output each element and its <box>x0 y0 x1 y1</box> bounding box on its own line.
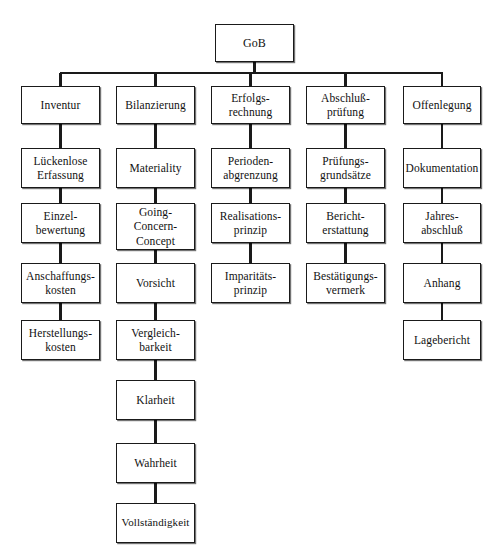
node-label: Materiality <box>127 161 183 175</box>
node-label: Einzel- bewertung <box>34 209 87 237</box>
node-label: Erfolgs- rechnung <box>227 91 275 119</box>
link-dokumentation-to-jahresabschluss <box>441 188 443 203</box>
link-inventur-to-lueckenlose-erfassung <box>59 124 61 148</box>
link-anschaffungskosten-to-herstellungskosten <box>59 303 61 320</box>
node-label: Bestätigungs- vermerk <box>311 269 380 297</box>
node-materiality: Materiality <box>116 148 195 188</box>
gob-hierarchy-diagram: GoBInventurLückenlose ErfassungEinzel- b… <box>0 0 499 560</box>
node-dokumentation: Dokumentation <box>403 148 481 188</box>
link-einzelbewertung-to-anschaffungskosten <box>59 243 61 263</box>
node-periodenabgrenzung: Perioden- abgrenzung <box>211 148 290 188</box>
node-label: Going- Concern- Concept <box>132 205 180 247</box>
node-jahresabschluss: Jahres- abschluß <box>403 203 481 243</box>
node-gob: GoB <box>215 24 294 62</box>
node-einzelbewertung: Einzel- bewertung <box>21 203 100 243</box>
node-bestaetigungsvermerk: Bestätigungs- vermerk <box>306 263 385 303</box>
link-going-concern-concept-to-vorsicht <box>154 250 156 263</box>
node-label: Klarheit <box>134 393 176 407</box>
node-label: Jahres- abschluß <box>419 209 465 237</box>
branch-drop-2 <box>249 73 251 86</box>
link-wahrheit-to-vollstaendigkeit <box>154 483 156 503</box>
node-label: Perioden- abgrenzung <box>221 154 280 182</box>
link-erfolgsrechnung-to-periodenabgrenzung <box>249 124 251 148</box>
link-realisationsprinzip-to-imparitaetsprinzip <box>249 243 251 263</box>
node-label: Anschaffungs- kosten <box>24 269 97 297</box>
node-offenlegung: Offenlegung <box>403 86 481 124</box>
node-pruefungsgrundsaetze: Prüfungs- grundsätze <box>306 148 385 188</box>
node-imparitaetsprinzip: Imparitäts- prinzip <box>211 263 290 303</box>
node-abschlusspruefung: Abschluß- prüfung <box>306 86 385 124</box>
node-anhang: Anhang <box>403 263 481 303</box>
node-label: Vollständigkeit <box>120 516 192 529</box>
node-lueckenlose-erfassung: Lückenlose Erfassung <box>21 148 100 188</box>
node-label: GoB <box>241 36 268 51</box>
node-label: Bericht- erstattung <box>320 209 370 237</box>
node-klarheit: Klarheit <box>116 380 195 420</box>
node-berichterstattung: Bericht- erstattung <box>306 203 385 243</box>
node-label: Vorsicht <box>134 276 177 290</box>
node-label: Herstellungs- kosten <box>27 326 94 354</box>
node-going-concern-concept: Going- Concern- Concept <box>116 203 195 250</box>
node-label: Realisations- prinzip <box>218 209 283 237</box>
node-wahrheit: Wahrheit <box>116 443 195 483</box>
node-label: Imparitäts- prinzip <box>223 269 279 297</box>
node-label: Bilanzierung <box>123 98 188 112</box>
node-vorsicht: Vorsicht <box>116 263 195 303</box>
branch-drop-1 <box>154 73 156 86</box>
link-anhang-to-lagebericht <box>441 303 443 320</box>
node-bilanzierung: Bilanzierung <box>116 86 195 124</box>
link-vergleichbarkeit-to-klarheit <box>154 360 156 380</box>
node-label: Wahrheit <box>132 456 179 470</box>
node-realisationsprinzip: Realisations- prinzip <box>211 203 290 243</box>
link-abschlusspruefung-to-pruefungsgrundsaetze <box>344 124 346 148</box>
link-lueckenlose-erfassung-to-einzelbewertung <box>59 188 61 203</box>
node-label: Offenlegung <box>410 98 473 112</box>
node-label: Inventur <box>39 98 83 112</box>
branch-drop-0 <box>59 73 61 86</box>
link-vorsicht-to-vergleichbarkeit <box>154 303 156 320</box>
node-label: Vergleich- barkeit <box>129 326 182 354</box>
link-bilanzierung-to-materiality <box>154 124 156 148</box>
link-pruefungsgrundsaetze-to-berichterstattung <box>344 188 346 203</box>
node-lagebericht: Lagebericht <box>403 320 481 360</box>
node-label: Anhang <box>421 276 462 290</box>
link-berichterstattung-to-bestaetigungsvermerk <box>344 243 346 263</box>
node-label: Prüfungs- grundsätze <box>318 154 373 182</box>
node-anschaffungskosten: Anschaffungs- kosten <box>21 263 100 303</box>
node-vollstaendigkeit: Vollständigkeit <box>116 503 195 543</box>
node-herstellungskosten: Herstellungs- kosten <box>21 320 100 360</box>
node-vergleichbarkeit: Vergleich- barkeit <box>116 320 195 360</box>
link-jahresabschluss-to-anhang <box>441 243 443 263</box>
node-label: Lagebericht <box>412 333 472 347</box>
node-inventur: Inventur <box>21 86 100 124</box>
link-klarheit-to-wahrheit <box>154 420 156 443</box>
node-erfolgsrechnung: Erfolgs- rechnung <box>211 86 290 124</box>
node-label: Lückenlose Erfassung <box>31 154 89 182</box>
link-periodenabgrenzung-to-realisationsprinzip <box>249 188 251 203</box>
node-label: Abschluß- prüfung <box>319 91 372 119</box>
link-materiality-to-going-concern-concept <box>154 188 156 203</box>
branch-drop-4 <box>441 73 443 86</box>
branch-drop-3 <box>344 73 346 86</box>
link-offenlegung-to-dokumentation <box>441 124 443 148</box>
node-label: Dokumentation <box>404 161 481 175</box>
